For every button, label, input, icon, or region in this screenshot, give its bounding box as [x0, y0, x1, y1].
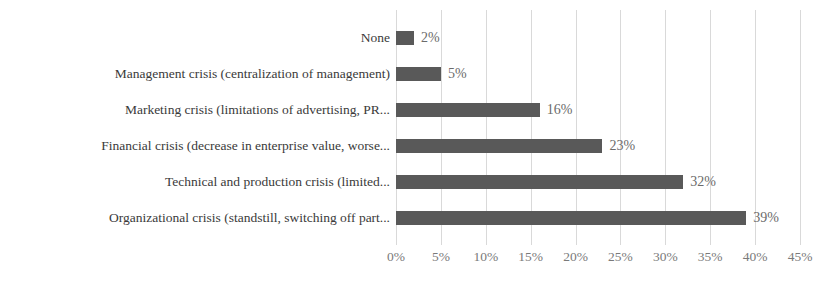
category-label: Management crisis (centralization of man… [10, 56, 390, 92]
x-tick-label: 15% [509, 247, 553, 267]
bar [396, 103, 540, 117]
chart-row: Financial crisis (decrease in enterprise… [0, 128, 833, 164]
bar-group: 16% [396, 103, 572, 117]
x-tick-label: 0% [374, 247, 418, 267]
category-label: Technical and production crisis (limited… [10, 164, 390, 200]
bar [396, 31, 414, 45]
x-tick-label: 25% [598, 247, 642, 267]
chart-row: Organizational crisis (standstill, switc… [0, 200, 833, 236]
chart-row: None2% [0, 20, 833, 56]
bar [396, 175, 683, 189]
bar-group: 32% [396, 175, 716, 189]
bar-group: 5% [396, 67, 467, 81]
x-axis: 0%5%10%15%20%25%30%35%40%45% [0, 247, 833, 271]
x-tick-label: 35% [688, 247, 732, 267]
bar-value-label: 39% [753, 211, 779, 225]
category-label: None [10, 20, 390, 56]
bar-value-label: 16% [547, 103, 573, 117]
chart-row: Technical and production crisis (limited… [0, 164, 833, 200]
x-tick-label: 10% [464, 247, 508, 267]
x-tick-label: 5% [419, 247, 463, 267]
bar [396, 139, 602, 153]
x-tick-label: 40% [733, 247, 777, 267]
category-label: Marketing crisis (limitations of adverti… [10, 92, 390, 128]
bar-group: 2% [396, 31, 440, 45]
bar-value-label: 5% [448, 67, 467, 81]
chart-row: Management crisis (centralization of man… [0, 56, 833, 92]
x-tick-label: 45% [778, 247, 822, 267]
bar-chart: None2%Management crisis (centralization … [0, 0, 833, 289]
bar-group: 23% [396, 139, 635, 153]
category-label: Organizational crisis (standstill, switc… [10, 200, 390, 236]
bar [396, 211, 746, 225]
x-tick-label: 30% [643, 247, 687, 267]
category-label: Financial crisis (decrease in enterprise… [10, 128, 390, 164]
bar-value-label: 32% [690, 175, 716, 189]
bar-value-label: 23% [609, 139, 635, 153]
bar-value-label: 2% [421, 31, 440, 45]
bar-group: 39% [396, 211, 779, 225]
bar [396, 67, 441, 81]
chart-row: Marketing crisis (limitations of adverti… [0, 92, 833, 128]
x-tick-label: 20% [554, 247, 598, 267]
